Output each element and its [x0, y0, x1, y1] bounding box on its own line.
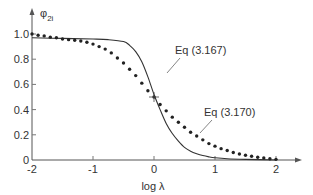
series-point-eq-3-170 — [165, 109, 168, 112]
series-point-eq-3-170 — [140, 81, 143, 84]
series-point-eq-3-170 — [91, 42, 94, 45]
series-point-eq-3-170 — [262, 156, 265, 159]
series-point-eq-3-170 — [134, 74, 137, 77]
annotation-leader-eq-3-170 — [200, 120, 212, 133]
series-point-eq-3-170 — [49, 35, 52, 38]
series-point-eq-3-170 — [79, 39, 82, 42]
series-point-eq-3-170 — [189, 131, 192, 134]
series-point-eq-3-170 — [201, 138, 204, 141]
annotation-eq-3-170: Eq (3.170) — [204, 106, 255, 118]
series-point-eq-3-170 — [30, 32, 33, 35]
series-point-eq-3-170 — [207, 142, 210, 145]
series-point-eq-3-170 — [183, 126, 186, 129]
series-point-eq-3-170 — [36, 34, 39, 37]
annotation-leader-eq-3-167 — [167, 58, 180, 73]
y-axis-label: φ2i — [40, 7, 54, 23]
series-point-eq-3-170 — [195, 134, 198, 137]
series-point-eq-3-170 — [226, 149, 229, 152]
series-point-eq-3-170 — [219, 147, 222, 150]
series-point-eq-3-170 — [274, 158, 277, 161]
x-tick-label: -1 — [88, 163, 98, 175]
series-point-eq-3-170 — [250, 155, 253, 158]
x-axis-arrow-icon — [295, 158, 302, 163]
series-point-eq-3-170 — [128, 68, 131, 71]
series-point-eq-3-170 — [213, 144, 216, 147]
y-tick-label: 0 — [23, 154, 29, 166]
series-point-eq-3-170 — [232, 151, 235, 154]
y-tick-label: 0.4 — [14, 104, 29, 116]
series-point-eq-3-170 — [55, 36, 58, 39]
series-point-eq-3-170 — [256, 156, 259, 159]
series-point-eq-3-170 — [171, 115, 174, 118]
series-point-eq-3-170 — [122, 61, 125, 64]
annotation-eq-3-167: Eq (3.167) — [175, 44, 226, 56]
series-point-eq-3-170 — [177, 121, 180, 124]
y-tick-label: 0.2 — [14, 129, 29, 141]
series-point-eq-3-170 — [67, 38, 70, 41]
x-tick-label: 0 — [151, 163, 157, 175]
series-point-eq-3-170 — [85, 40, 88, 43]
y-axis-arrow-icon — [30, 8, 35, 15]
series-point-eq-3-170 — [61, 37, 64, 40]
series-point-eq-3-170 — [104, 47, 107, 50]
series-point-eq-3-170 — [43, 34, 46, 37]
y-tick-label: 0.8 — [14, 53, 29, 65]
series-point-eq-3-170 — [238, 152, 241, 155]
series-point-eq-3-170 — [110, 51, 113, 54]
y-tick-label: 0.6 — [14, 78, 29, 90]
axes — [30, 8, 303, 163]
y-tick-label: 1.0 — [14, 28, 29, 40]
x-tick-label: 2 — [273, 163, 279, 175]
series-point-eq-3-170 — [244, 154, 247, 157]
series-point-eq-3-170 — [268, 157, 271, 160]
chart: -2-101200.20.40.60.81.0 Eq (3.167)Eq (3.… — [0, 0, 313, 195]
series-point-eq-3-170 — [73, 39, 76, 42]
x-tick-label: 1 — [212, 163, 218, 175]
series-point-eq-3-170 — [146, 89, 149, 92]
series-point-eq-3-170 — [97, 45, 100, 48]
series-point-eq-3-170 — [116, 56, 119, 59]
x-axis-label: log λ — [141, 180, 165, 192]
series-point-eq-3-170 — [158, 103, 161, 106]
